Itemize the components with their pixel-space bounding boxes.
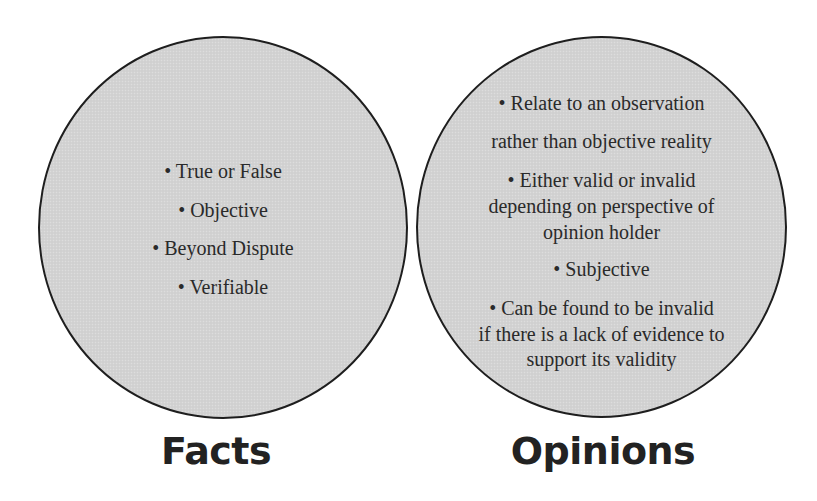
opinions-item-either-line1: • Either valid or invalid — [418, 168, 785, 192]
opinions-circle: • Relate to an observation rather than o… — [416, 36, 787, 418]
opinions-item-relate-line2: rather than objective reality — [418, 129, 785, 153]
facts-item-true-or-false: • True or False — [40, 159, 406, 183]
opinions-item-subjective: • Subjective — [418, 257, 785, 281]
opinions-label: Opinions — [503, 428, 703, 474]
opinions-item-invalid-line2: if there is a lack of evidence to — [418, 322, 785, 346]
opinions-item-either-line3: opinion holder — [418, 220, 785, 244]
opinions-item-relate-line1: • Relate to an observation — [418, 91, 785, 115]
opinions-item-invalid-line3: support its validity — [418, 347, 785, 371]
facts-item-verifiable: • Verifiable — [40, 275, 406, 299]
facts-item-objective: • Objective — [40, 198, 406, 222]
opinions-item-either-line2: depending on perspective of — [418, 194, 785, 218]
facts-circle: • True or False • Objective • Beyond Dis… — [38, 36, 408, 419]
facts-item-beyond-dispute: • Beyond Dispute — [40, 236, 406, 260]
opinions-item-invalid-line1: • Can be found to be invalid — [418, 296, 785, 320]
facts-label: Facts — [116, 428, 316, 474]
